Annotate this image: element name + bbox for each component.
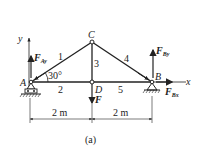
joint-C bbox=[90, 40, 94, 44]
force-FAy-label: FAy bbox=[33, 52, 47, 64]
support-B-icon bbox=[143, 83, 160, 93]
dimension-left-label: 2 m bbox=[52, 107, 68, 118]
member-5-label: 5 bbox=[118, 84, 123, 95]
member-2-label: 2 bbox=[58, 84, 63, 95]
force-FBx-label: FBx bbox=[164, 86, 179, 98]
y-axis-label: y bbox=[17, 33, 23, 44]
node-B-label: B bbox=[155, 71, 161, 82]
force-FBy-label: FBy bbox=[155, 45, 170, 57]
force-F-label: F bbox=[94, 94, 102, 105]
member-4-label: 4 bbox=[124, 53, 129, 64]
x-axis-label: x bbox=[185, 76, 191, 87]
dimension-lines bbox=[30, 96, 152, 123]
angle-label: 30° bbox=[48, 70, 62, 81]
joint-D bbox=[90, 80, 94, 84]
dimension-right-label: 2 m bbox=[113, 107, 129, 118]
node-A-label: A bbox=[19, 77, 27, 88]
member-3-label: 3 bbox=[94, 58, 99, 69]
truss-diagram: y x C A B D 1 2 3 4 5 30° FAy FBy FBx F … bbox=[0, 0, 208, 152]
member-1-label: 1 bbox=[58, 51, 63, 62]
node-C-label: C bbox=[88, 29, 95, 40]
figure-caption: (a) bbox=[85, 134, 96, 146]
